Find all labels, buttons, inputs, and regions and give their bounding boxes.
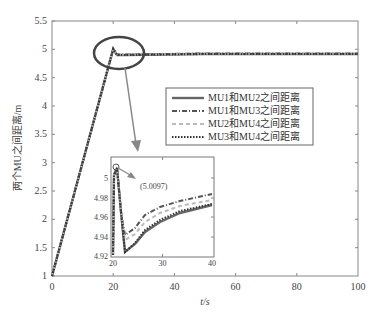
inset-chart: 5 4.98 4.96 4.94 4.92 20 30 40 (5.0097) bbox=[94, 157, 216, 268]
peak-annotation: (5.0097) bbox=[140, 182, 168, 191]
legend-label: MU1和MU3之间距离 bbox=[208, 104, 300, 116]
inset-y-tick: 4.94 bbox=[94, 233, 108, 242]
x-tick-label: 60 bbox=[231, 281, 241, 292]
y-tick-label: 5.5 bbox=[35, 15, 48, 26]
highlight-ellipse bbox=[94, 37, 144, 69]
y-tick-label: 4 bbox=[42, 100, 47, 111]
x-axis-label: t/s bbox=[200, 296, 210, 307]
x-tick-label: 20 bbox=[108, 281, 118, 292]
arrowhead-icon bbox=[131, 140, 141, 152]
inset-x-tick: 40 bbox=[208, 259, 216, 268]
inset-x-tick: 20 bbox=[109, 259, 117, 268]
inset-y-tick: 4.92 bbox=[94, 252, 108, 261]
x-tick-label: 100 bbox=[351, 281, 366, 292]
x-tick-label: 80 bbox=[292, 281, 302, 292]
inset-y-tick: 4.96 bbox=[94, 213, 108, 222]
inset-y-tick: 5 bbox=[104, 174, 108, 183]
legend-label: MU1和MU2之间距离 bbox=[208, 91, 300, 103]
inset-y-tick: 4.98 bbox=[94, 194, 108, 203]
y-tick-label: 1.5 bbox=[35, 242, 48, 253]
y-tick-label: 3.5 bbox=[35, 128, 48, 139]
y-tick-label: 2.5 bbox=[35, 185, 48, 196]
zoom-arrow bbox=[125, 68, 136, 144]
y-axis-label: 两个MU之间距离/m bbox=[11, 104, 23, 191]
y-tick-label: 1 bbox=[42, 270, 47, 281]
legend: MU1和MU2之间距离 MU1和MU3之间距离 MU2和MU4之间距离 MU3和… bbox=[166, 88, 313, 145]
legend-label: MU2和MU4之间距离 bbox=[208, 117, 300, 129]
x-tick-label: 40 bbox=[169, 281, 179, 292]
line-chart: 1 1.5 2 2.5 3 3.5 4 4.5 5 5.5 两个MU之间距离/m… bbox=[0, 0, 379, 320]
y-tick-label: 5 bbox=[42, 43, 47, 54]
y-tick-label: 3 bbox=[42, 157, 47, 168]
x-tick-label: 0 bbox=[50, 281, 55, 292]
y-tick-label: 2 bbox=[42, 213, 47, 224]
y-tick-label: 4.5 bbox=[35, 72, 48, 83]
legend-label: MU3和MU4之间距离 bbox=[208, 130, 300, 142]
inset-x-tick: 30 bbox=[159, 259, 167, 268]
